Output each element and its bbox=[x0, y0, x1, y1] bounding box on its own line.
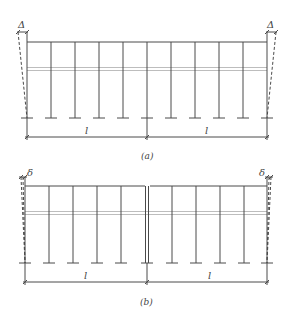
panel-a bbox=[16, 30, 278, 140]
panel-b-caption: (b) bbox=[140, 297, 153, 307]
panel-a-caption: (a) bbox=[141, 151, 154, 161]
panel-a-drift-dimensions bbox=[16, 30, 278, 42]
panel-a-drift-label-right: Δ bbox=[266, 19, 274, 30]
panel-a-drift-label-left: Δ bbox=[17, 19, 25, 30]
panel-b-span-label-1: l bbox=[84, 270, 87, 281]
panel-b bbox=[19, 175, 273, 285]
panel-b-drift-label-right: δ bbox=[259, 167, 265, 178]
panel-b-span-dimension bbox=[23, 263, 269, 285]
panel-a-span-dimension bbox=[25, 118, 269, 140]
panel-a-span-label-1: l bbox=[85, 125, 88, 136]
panel-b-drift-dimensions bbox=[19, 175, 273, 186]
panel-b-columns bbox=[25, 186, 267, 263]
panel-b-span-label-2: l bbox=[208, 270, 211, 281]
panel-b-drift-label-left: δ bbox=[27, 167, 33, 178]
panel-a-span-label-2: l bbox=[205, 125, 208, 136]
frame-drift-diagram: Δ Δ l l (a) bbox=[0, 0, 291, 323]
panel-a-columns bbox=[27, 42, 267, 118]
